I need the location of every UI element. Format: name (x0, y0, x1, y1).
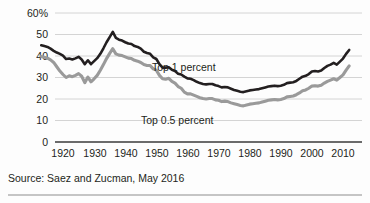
x-tick-label-1930: 1930 (83, 147, 107, 159)
x-tick-label-1970: 1970 (207, 147, 231, 159)
y-tick-label-10: 10 (36, 114, 48, 126)
series-annotation-top-1-percent: Top 1 percent (152, 61, 216, 73)
wealth-share-line-chart: 60% 50 40 30 20 10 0 1920 1930 1940 1950… (0, 0, 370, 203)
x-tick-label-1920: 1920 (51, 147, 75, 159)
y-tick-label-20: 20 (36, 93, 48, 105)
x-tick-label-1940: 1940 (114, 147, 138, 159)
y-axis-tick-labels: 60% 50 40 30 20 10 0 (27, 7, 48, 148)
x-tick-label-2010: 2010 (331, 147, 355, 159)
x-tick-label-1980: 1980 (238, 147, 262, 159)
x-tick-label-1990: 1990 (269, 147, 293, 159)
chart-figure: 60% 50 40 30 20 10 0 1920 1930 1940 1950… (0, 0, 370, 203)
y-tick-label-60: 60% (27, 7, 48, 19)
y-tick-label-0: 0 (42, 136, 48, 148)
series-annotation-top-0-5-percent: Top 0.5 percent (141, 114, 213, 126)
x-tick-label-1960: 1960 (176, 147, 200, 159)
x-tick-label-2000: 2000 (300, 147, 324, 159)
y-tick-label-50: 50 (36, 28, 48, 40)
y-tick-label-30: 30 (36, 71, 48, 83)
x-axis-tick-labels: 1920 1930 1940 1950 1960 1970 1980 1990 … (51, 147, 355, 159)
source-note: Source: Saez and Zucman, May 2016 (8, 172, 184, 184)
x-tick-label-1950: 1950 (145, 147, 169, 159)
